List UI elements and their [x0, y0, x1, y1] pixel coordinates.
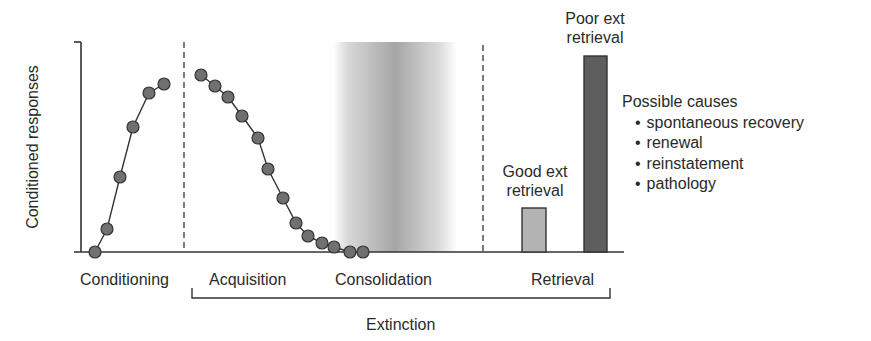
extinction-bracket-right [570, 288, 610, 298]
phase-label-consolidation: Consolidation [335, 270, 432, 289]
phase-label-retrieval: Retrieval [531, 270, 594, 289]
cause-item: renewal [635, 133, 804, 154]
cause-item: spontaneous recovery [635, 113, 804, 134]
bar-poor-label: Poor ext retrieval [555, 9, 635, 47]
extinction-bracket [192, 288, 570, 298]
bar-good-retrieval [522, 208, 546, 252]
conditioning-series [89, 78, 170, 258]
bar-poor-retrieval [584, 56, 607, 252]
causes-title: Possible causes [622, 92, 804, 113]
extinction-label: Extinction [366, 315, 435, 334]
bar-good-label-line1: Good ext [495, 162, 575, 181]
bar-poor-label-line1: Poor ext [555, 9, 635, 28]
bar-good-label-line2: retrieval [495, 181, 575, 200]
possible-causes-list: Possible causes spontaneous recovery ren… [622, 92, 804, 195]
phase-label-conditioning: Conditioning [80, 270, 169, 289]
y-axis [74, 42, 81, 252]
consolidation-band [333, 42, 457, 252]
cause-item: reinstatement [635, 154, 804, 175]
bar-poor-label-line2: retrieval [555, 28, 635, 47]
y-axis-label: Conditioned responses [24, 65, 42, 229]
phase-label-acquisition: Acquisition [209, 270, 286, 289]
bar-good-label: Good ext retrieval [495, 162, 575, 200]
cause-item: pathology [635, 174, 804, 195]
